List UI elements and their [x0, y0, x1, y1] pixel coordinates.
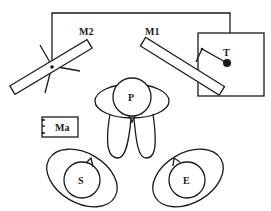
- mirror-m2: [10, 40, 92, 95]
- target-dot: [223, 59, 231, 67]
- diagram-svg: M2 M1 T P Ma S E: [0, 0, 271, 211]
- m2-label: M2: [79, 26, 93, 37]
- m1-label: M1: [145, 26, 159, 37]
- t-label: T: [223, 47, 230, 58]
- person-e: E: [143, 137, 234, 211]
- person-s: S: [37, 137, 128, 211]
- s-label: S: [78, 175, 84, 186]
- p-label: P: [128, 92, 134, 103]
- e-label: E: [183, 175, 190, 186]
- person-p: P: [95, 78, 169, 158]
- ma-box: Ma: [42, 117, 78, 137]
- experiment-layout-diagram: M2 M1 T P Ma S E: [0, 0, 271, 211]
- ma-label: Ma: [55, 122, 69, 133]
